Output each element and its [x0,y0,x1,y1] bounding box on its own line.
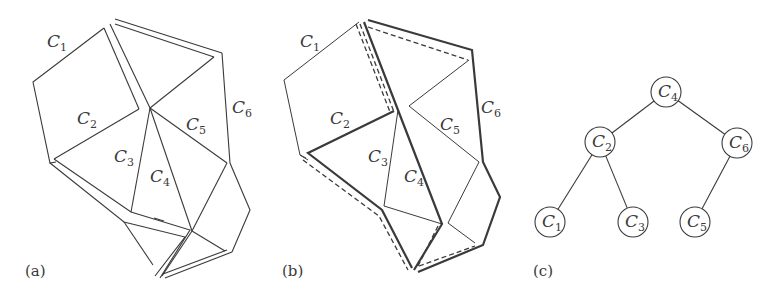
cell-edge [192,231,225,251]
cell-decomposition-figure: C1C2C3C4C5C6(a) C1C2C3C4C5C6(b) C4C2C6C1… [0,0,781,299]
separator-dashed-path [303,160,408,270]
cell-label-c6: C6 [232,97,252,120]
tree-node-c1: C1 [535,207,565,237]
separator-thick-path [308,111,412,268]
cell-label-c1: C1 [47,31,67,54]
separator-double-line [115,24,214,57]
panel-caption-c: (c) [533,262,553,280]
tree-edge-c6-c5 [702,156,730,209]
panel-caption-a: (a) [25,262,46,280]
cell-edge [192,163,227,231]
separator-double-line [104,28,139,109]
separator-dashed-path [356,24,390,112]
tree-node-c6: C6 [722,128,752,158]
tree-node-c2: C2 [585,127,615,157]
cell-label-c2: C2 [330,108,350,131]
cell-label-c4: C4 [150,166,170,189]
cell-edge [284,22,359,160]
tree-edge-c2-c1 [558,155,592,210]
cell-edge [409,60,469,106]
cell-label-c6: C6 [481,97,501,120]
cell-label-c3: C3 [114,146,134,169]
cell-label-c5: C5 [186,114,206,137]
panel-b-separator-paths: C1C2C3C4C5C6(b) [282,20,501,280]
figure-canvas: C1C2C3C4C5C6(a) C1C2C3C4C5C6(b) C4C2C6C1… [0,0,781,299]
cell-label-c1: C1 [300,31,320,54]
tree-node-c4: C4 [651,77,681,107]
cell-edge [33,28,104,163]
panel-c-binary-tree: C4C2C6C1C3C5(c) [533,77,752,280]
cell-label-c3: C3 [368,146,388,169]
panel-caption-b: (b) [282,262,303,280]
cell-label-c5: C5 [440,114,460,137]
tree-edge-c2-c3 [606,156,628,208]
tree-node-c3: C3 [618,207,648,237]
cell-edge [300,155,306,158]
separator-double-line [110,24,150,108]
panel-a-partition: C1C2C3C4C5C6(a) [25,19,252,280]
separator-dashed-path [360,24,394,112]
separator-double-line [115,19,222,53]
cell-label-c2: C2 [77,108,97,131]
tree-edge-c4-c2 [612,101,654,133]
tree-edge-c4-c6 [678,101,725,134]
tree-node-c5: C5 [680,207,710,237]
cell-edge [222,53,250,252]
cell-edge [150,57,214,108]
